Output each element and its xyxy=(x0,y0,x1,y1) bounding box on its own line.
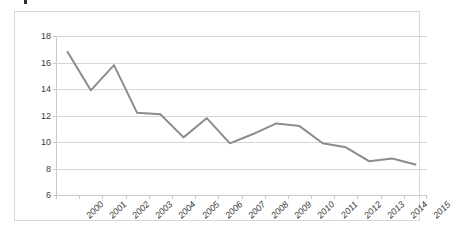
y-tick-label: 12 xyxy=(41,111,51,120)
cropped-text-artifact xyxy=(24,0,27,4)
x-tick-mark xyxy=(426,195,427,199)
x-tick-label: 2004 xyxy=(177,200,198,221)
x-tick-mark xyxy=(265,195,266,199)
x-tick-mark xyxy=(381,195,382,199)
x-tick-mark xyxy=(404,195,405,199)
x-tick-label: 2001 xyxy=(108,200,129,221)
y-tick-label: 16 xyxy=(41,58,51,67)
y-tick-label: 8 xyxy=(46,164,51,173)
x-tick-mark xyxy=(149,195,150,199)
x-tick-mark xyxy=(311,195,312,199)
x-tick-mark xyxy=(218,195,219,199)
y-tick-label: 18 xyxy=(41,32,51,41)
x-tick-label: 2008 xyxy=(270,200,291,221)
series-polyline xyxy=(68,52,416,165)
chart-frame: 681012141618 200020012002200320042005200… xyxy=(14,11,420,221)
x-axis-line xyxy=(56,195,427,196)
x-tick-label: 2002 xyxy=(131,200,152,221)
x-tick-label: 2011 xyxy=(339,200,359,220)
x-axis-tick-labels: 2000200120022003200420052006200720082009… xyxy=(56,200,427,240)
x-tick-label: 2013 xyxy=(386,200,407,221)
plot-area: 681012141618 xyxy=(56,36,427,195)
x-tick-label: 2003 xyxy=(154,200,175,221)
x-tick-mark xyxy=(195,195,196,199)
y-tick-label: 6 xyxy=(46,191,51,200)
y-tick-label: 14 xyxy=(41,85,51,94)
x-tick-label: 2006 xyxy=(224,200,245,221)
x-tick-mark xyxy=(102,195,103,199)
x-tick-label: 2000 xyxy=(84,200,105,221)
y-tick-label: 10 xyxy=(41,138,51,147)
x-tick-label: 2012 xyxy=(363,200,384,221)
line-series xyxy=(56,36,427,195)
x-tick-mark xyxy=(357,195,358,199)
x-tick-label: 2009 xyxy=(293,200,314,221)
x-tick-label: 2007 xyxy=(247,200,268,221)
x-tick-mark xyxy=(79,195,80,199)
x-tick-label: 2005 xyxy=(200,200,221,221)
x-tick-mark xyxy=(126,195,127,199)
x-tick-mark xyxy=(56,195,57,199)
x-tick-label: 2014 xyxy=(409,200,430,221)
x-tick-label: 2015 xyxy=(432,200,453,221)
x-tick-mark xyxy=(288,195,289,199)
x-tick-label: 2010 xyxy=(316,200,337,221)
x-tick-mark xyxy=(242,195,243,199)
x-tick-mark xyxy=(172,195,173,199)
x-tick-mark xyxy=(334,195,335,199)
